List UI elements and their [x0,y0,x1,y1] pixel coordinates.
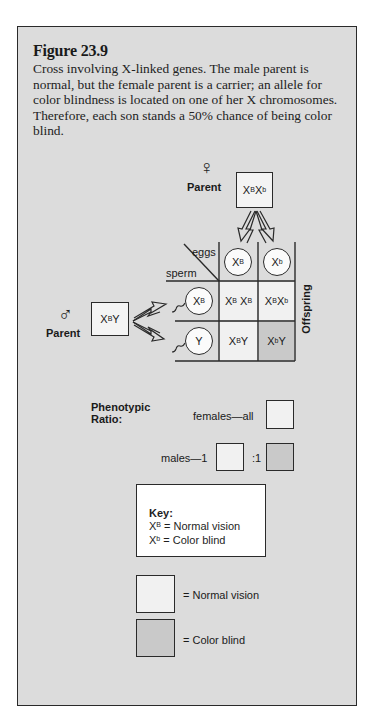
key-title: Key: [149,507,173,519]
arrow-to-egg-1-icon [238,211,255,241]
females-ratio-label: females—all [193,410,254,422]
offspring-cell-2-2: XbY [259,322,294,360]
legend-colorblind-swatch [136,619,175,657]
sperm-circle-1: XB [185,287,213,315]
females-normal-swatch [266,400,294,429]
offspring-cell-1-1: XB XB [220,282,257,320]
sperm-circle-2: Y [185,327,213,355]
sperm-label: sperm [166,267,197,279]
males-ratio-separator: :1 [252,452,261,464]
arrow-to-egg-2-icon [257,211,274,241]
cross-diagram-lines [0,0,377,722]
males-ratio-label: males—1 [161,452,207,464]
legend-normal-label: = Normal vision [183,589,259,601]
eggs-label: eggs [192,246,216,258]
offspring-label: Offspring [300,282,314,336]
legend-normal-swatch [136,575,175,613]
key-entry-colorblind: Xb = Color blind [149,534,225,546]
legend-colorblind-label: = Color blind [183,634,245,646]
males-colorblind-swatch [266,443,294,471]
offspring-cell-1-2: XBXb [259,282,294,320]
males-normal-swatch [216,443,244,471]
egg-circle-2: Xb [263,248,291,276]
offspring-cell-2-1: XBY [220,322,257,360]
egg-circle-1: XB [224,248,252,276]
key-box: Key: XB = Normal vision Xb = Color blind [136,484,266,557]
phenotypic-ratio-title: Phenotypic Ratio: [91,401,150,425]
key-entry-normal: XB = Normal vision [149,520,240,532]
